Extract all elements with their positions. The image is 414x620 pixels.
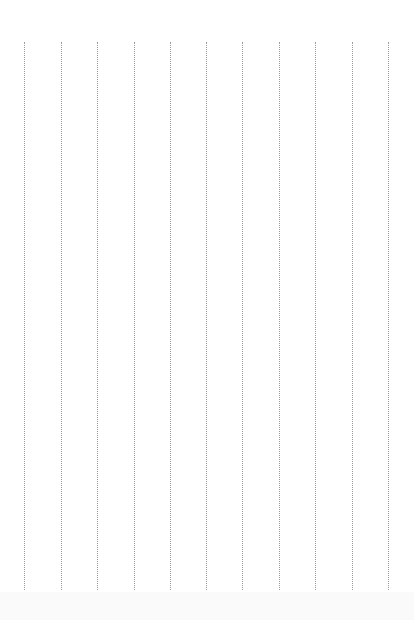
ruled-page [0, 0, 414, 620]
rule-line [134, 42, 135, 590]
rule-line [352, 42, 353, 590]
rule-line [242, 42, 243, 590]
rule-line [24, 42, 25, 590]
rule-line [61, 42, 62, 590]
rule-line [170, 42, 171, 590]
rule-line [279, 42, 280, 590]
rule-line [97, 42, 98, 590]
rule-line [388, 42, 389, 590]
rule-line [315, 42, 316, 590]
rule-line [206, 42, 207, 590]
bottom-margin [0, 592, 414, 620]
